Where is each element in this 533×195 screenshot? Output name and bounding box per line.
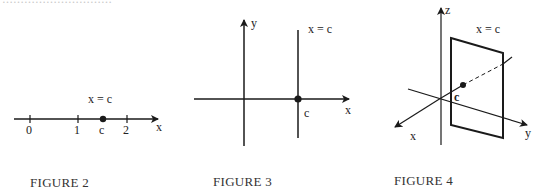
point-label-c: c (99, 123, 104, 137)
figure-3: y x = c c x FIGURE 3 (194, 16, 351, 189)
point-label-c: c (454, 90, 460, 104)
figure-2-caption: FIGURE 2 (30, 175, 89, 190)
axis-label-x: x (345, 103, 351, 117)
equation-label: x = c (88, 92, 112, 106)
axis-label-y: y (251, 16, 257, 30)
equation-label: x = c (476, 22, 500, 36)
axis-label-z: z (445, 3, 450, 17)
x-axis-line (395, 98, 441, 127)
point-c-dot (294, 95, 301, 102)
figures-canvas: ………………………… 0 1 2 c x x = c FIGURE 2 y x … (0, 0, 533, 195)
figure-4: z x = c c x y FIGURE 4 (394, 3, 531, 188)
tick-label-0: 0 (26, 123, 32, 137)
figure-2: 0 1 2 c x x = c FIGURE 2 (14, 92, 162, 190)
point-c-dot (100, 116, 106, 122)
point-c-dot (460, 82, 466, 88)
figure-4-caption: FIGURE 4 (394, 173, 453, 188)
equation-label: x = c (308, 22, 332, 36)
point-label-c: c (304, 106, 309, 120)
axis-label-y: y (525, 126, 531, 140)
axis-label-x: x (410, 129, 416, 143)
tick-label-2: 2 (123, 123, 129, 137)
axis-label-x: x (156, 120, 162, 134)
figure-3-caption: FIGURE 3 (213, 174, 272, 189)
x-axis-hidden-dashed (463, 64, 503, 85)
x-axis-beyond-plane (503, 57, 512, 64)
tick-label-1: 1 (74, 123, 80, 137)
cutoff-top-text: ………………………… (2, 0, 112, 6)
